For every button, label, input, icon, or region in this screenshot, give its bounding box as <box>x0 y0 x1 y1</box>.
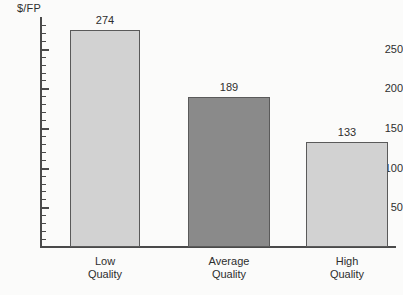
bar-value-label: 189 <box>220 81 238 93</box>
x-axis-category-label: LowQuality <box>88 255 122 281</box>
bar-value-label: 274 <box>96 14 114 26</box>
bar <box>306 142 388 247</box>
bar-chart: $/FP 50100150200250 274LowQuality189Aver… <box>0 0 403 295</box>
bar-value-label: 133 <box>338 126 356 138</box>
x-axis-category-label: HighQuality <box>330 255 364 281</box>
bar <box>188 97 270 247</box>
x-axis-category-label: AverageQuality <box>209 255 250 281</box>
plot-area: 274LowQuality189AverageQuality133HighQua… <box>0 0 403 295</box>
bar <box>70 30 140 247</box>
